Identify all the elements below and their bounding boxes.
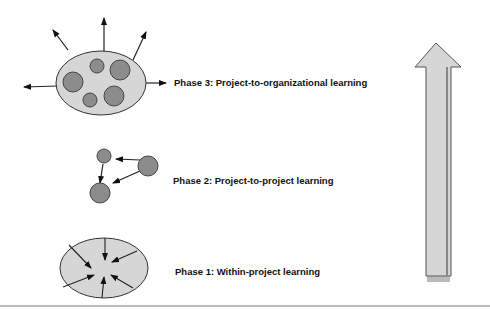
diagram-canvas	[0, 0, 490, 309]
bottom-divider	[0, 305, 490, 307]
phase1-label: Phase 1: Within-project learning	[175, 266, 320, 277]
phase1-icon	[60, 238, 148, 298]
phase3-label: Phase 3: Project-to-organizational learn…	[174, 77, 367, 88]
phase2-label: Phase 2: Project-to-project learning	[173, 175, 333, 186]
up-arrow-icon	[415, 43, 461, 281]
phase2-icon	[90, 149, 158, 203]
phase3-icon	[24, 18, 166, 115]
